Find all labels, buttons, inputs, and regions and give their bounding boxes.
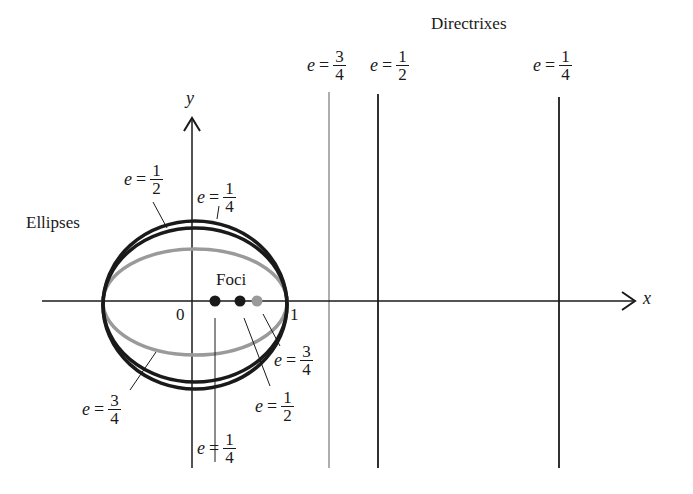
equals-sign: = (382, 55, 392, 76)
e-symbol: e (307, 55, 315, 76)
fraction: 12 (281, 389, 294, 424)
numerator: 1 (396, 48, 409, 66)
equals-sign: = (94, 399, 104, 420)
focus-e-3-4 (252, 296, 263, 307)
directrix-label-e-3-4: e= 34 (307, 48, 346, 83)
numerator: 3 (333, 48, 346, 66)
equals-sign: = (267, 396, 277, 417)
ellipse-label-e-1-2: e= 12 (124, 162, 163, 197)
denominator: 4 (561, 66, 570, 83)
e-symbol: e (197, 187, 205, 208)
focus-label-e-3-4: e= 34 (274, 343, 313, 378)
leader-ellipse-e-1-2 (153, 202, 167, 228)
e-symbol: e (82, 399, 90, 420)
numerator: 3 (300, 343, 313, 361)
leader-ellipse-e-3-4 (130, 352, 156, 390)
leader-focus-e-3-4 (263, 314, 280, 346)
numerator: 1 (223, 431, 236, 449)
equals-sign: = (319, 55, 329, 76)
denominator: 4 (110, 410, 119, 427)
e-symbol: e (255, 396, 263, 417)
fraction: 14 (223, 180, 236, 215)
equals-sign: = (545, 55, 555, 76)
ellipse-label-e-3-4: e= 34 (82, 392, 121, 427)
equals-sign: = (209, 187, 219, 208)
denominator: 2 (283, 407, 292, 424)
fraction: 34 (300, 343, 313, 378)
foci-label: Foci (216, 270, 246, 290)
origin-label: 0 (176, 305, 185, 325)
ellipses-label: Ellipses (26, 213, 80, 233)
directrixes-label: Directrixes (431, 14, 507, 34)
denominator: 2 (398, 66, 407, 83)
y-axis-label: y (186, 88, 194, 109)
fraction: 34 (333, 48, 346, 83)
e-symbol: e (274, 350, 282, 371)
e-symbol: e (124, 169, 132, 190)
e-symbol: e (533, 55, 541, 76)
denominator: 4 (302, 361, 311, 378)
fraction: 12 (150, 162, 163, 197)
one-label: 1 (290, 305, 299, 325)
focus-label-e-1-2: e= 12 (255, 389, 294, 424)
numerator: 1 (281, 389, 294, 407)
ellipse-label-e-1-4: e= 14 (197, 180, 236, 215)
numerator: 1 (223, 180, 236, 198)
ellipse-diagram: Directrixes Ellipses Foci y x 0 1 e= 34 … (0, 0, 693, 494)
equals-sign: = (136, 169, 146, 190)
directrix-label-e-1-2: e= 12 (370, 48, 409, 83)
focus-label-e-1-4: e= 14 (197, 431, 236, 466)
focus-e-1-4 (210, 296, 221, 307)
e-symbol: e (197, 438, 205, 459)
equals-sign: = (209, 438, 219, 459)
fraction: 14 (559, 48, 572, 83)
numerator: 1 (559, 48, 572, 66)
fraction: 34 (108, 392, 121, 427)
denominator: 4 (225, 198, 234, 215)
numerator: 1 (150, 162, 163, 180)
e-symbol: e (370, 55, 378, 76)
fraction: 14 (223, 431, 236, 466)
numerator: 3 (108, 392, 121, 410)
directrix-label-e-1-4: e= 14 (533, 48, 572, 83)
focus-e-1-2 (235, 296, 246, 307)
denominator: 4 (225, 449, 234, 466)
denominator: 4 (335, 66, 344, 83)
x-axis-label: x (643, 288, 651, 309)
fraction: 12 (396, 48, 409, 83)
denominator: 2 (152, 180, 161, 197)
equals-sign: = (286, 350, 296, 371)
